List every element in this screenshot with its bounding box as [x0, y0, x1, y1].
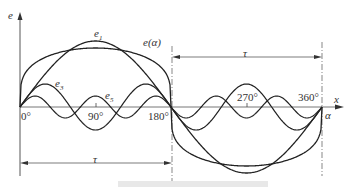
tau-bottom-arrow-right-icon: [164, 161, 172, 165]
x-axis-arrow-icon: [335, 105, 344, 110]
curve-label-e5: e5: [105, 90, 113, 104]
tau-bottom-label: τ: [93, 154, 97, 165]
tick-label-270: 270°: [237, 92, 258, 103]
curve-label-e-alpha: e(α): [143, 37, 161, 48]
tick-label-90: 90°: [88, 111, 103, 122]
tau-top-arrow-left-icon: [172, 55, 180, 59]
figure-caption-faint: [118, 181, 268, 187]
curve-label-e1: e1: [94, 28, 102, 42]
tick-label-180: 180°: [148, 111, 169, 122]
tau-top-arrow-right-icon: [314, 55, 322, 59]
alpha-axis-label: α: [325, 110, 331, 121]
x-axis-label: x: [334, 94, 339, 105]
tick-label-360: 360°: [298, 92, 319, 103]
tick-label-0: 0°: [21, 111, 31, 122]
tau-top-label: τ: [243, 48, 247, 59]
y-axis-arrow-icon: [18, 12, 23, 20]
y-axis-label: e: [8, 10, 13, 21]
tau-bottom-arrow-left-icon: [20, 161, 28, 165]
curve-label-e3: e3: [55, 78, 63, 92]
